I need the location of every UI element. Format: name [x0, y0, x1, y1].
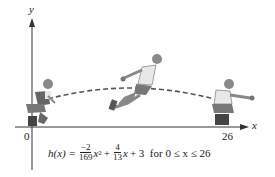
formula-lhs: h(x) =	[48, 147, 76, 159]
crouching-jumper-landing	[212, 79, 255, 125]
term2-variable: x	[123, 147, 128, 159]
y-axis-arrow-icon	[29, 18, 35, 27]
y-axis-label: y	[29, 3, 34, 15]
x-axis-label: x	[252, 119, 257, 131]
fraction-2-denominator: 13	[113, 153, 122, 162]
fraction-2: 4 13	[113, 143, 122, 162]
x-end-label: 26	[222, 130, 233, 142]
crouching-jumper-start	[26, 79, 55, 126]
term1-exponent: 2	[98, 149, 102, 157]
plus-sign: +	[104, 147, 110, 159]
height-formula: h(x) = −2 169 x2 + 4 13 x + 3 for 0 ≤ x …	[48, 143, 211, 162]
x-axis-arrow-icon	[240, 124, 249, 130]
fraction-1: −2 169	[79, 143, 93, 162]
formula-domain: + 3 for 0 ≤ x ≤ 26	[130, 147, 211, 159]
origin-label: 0	[24, 130, 30, 142]
jumper-midair	[108, 54, 162, 111]
fraction-1-denominator: 169	[79, 153, 93, 162]
